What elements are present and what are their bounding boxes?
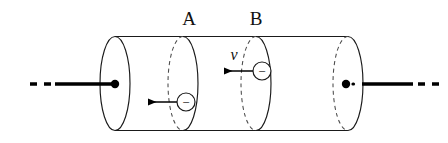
cross-section-b-front-arc [256,37,271,131]
lead-wire-right [342,80,440,88]
cross-section-a [168,37,198,131]
cross-section-b [241,37,271,131]
right-face-front-arc [348,37,363,131]
label-velocity: v [230,46,238,63]
cross-section-a-back-arc [168,37,183,131]
electron-a-charge-sign: − [182,95,189,110]
right-terminal-dot [342,80,350,88]
electron-b-charge-sign: − [258,64,265,79]
electron-a: − [148,93,195,111]
left-terminal-dot [111,80,119,88]
cross-section-b-back-arc [241,37,256,131]
label-cross-section-a: A [182,8,196,29]
figure-canvas: A B − − v [0,0,448,143]
label-cross-section-b: B [250,8,263,29]
cross-section-a-front-arc [183,37,198,131]
conductor-diagram: A B − − v [0,0,448,143]
lead-wire-left [30,80,119,88]
electron-b: − v [224,46,271,80]
